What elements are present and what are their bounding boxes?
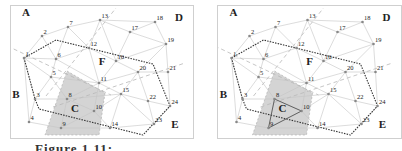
region-label: D <box>383 11 391 23</box>
node-label: 7 <box>70 19 74 26</box>
graph-edge <box>250 36 264 59</box>
node-label: 15 <box>123 86 130 93</box>
node-label: 19 <box>168 36 175 43</box>
node-label: 10 <box>96 103 103 110</box>
graph-node <box>267 127 270 130</box>
node-label: 3 <box>37 91 40 98</box>
node-label: 23 <box>363 116 370 123</box>
node-label: 20 <box>347 64 354 71</box>
graph-edge <box>308 20 338 32</box>
graph-node <box>99 19 102 22</box>
graph-edge <box>356 101 378 106</box>
region-label: A <box>230 6 238 18</box>
node-label: 7 <box>277 19 281 26</box>
graph-edge <box>56 48 89 59</box>
node-label: 5 <box>53 69 56 76</box>
region-label: F <box>99 55 106 67</box>
node-label: 12 <box>91 40 98 47</box>
node-label: 3 <box>244 91 247 98</box>
graph-node <box>248 35 251 38</box>
node-label: 2 <box>44 28 47 35</box>
node-label: 24 <box>379 98 386 105</box>
node-label: 18 <box>364 14 371 21</box>
node-label: 14 <box>112 120 119 127</box>
node-label: 4 <box>238 114 242 121</box>
graph-edge <box>276 27 297 48</box>
graph-node <box>28 121 31 124</box>
graph-edge <box>346 72 356 101</box>
graph-edge <box>356 101 362 124</box>
node-label: 17 <box>339 24 346 31</box>
node-label: 20 <box>140 64 147 71</box>
graph-node <box>257 76 260 79</box>
graph-node <box>316 127 319 130</box>
graph-node <box>344 71 347 74</box>
node-label: 16 <box>118 53 125 60</box>
node-label: 9 <box>270 120 273 127</box>
graph-edge <box>264 48 297 59</box>
graph-node <box>23 57 26 60</box>
region-label: C <box>71 102 79 114</box>
node-label: 19 <box>375 36 382 43</box>
graph-node <box>120 93 123 96</box>
node-label: 6 <box>58 51 62 58</box>
node-label: 1 <box>26 50 29 57</box>
node-label: 21 <box>377 64 384 71</box>
graph-edge <box>308 20 363 22</box>
graph-edge <box>68 20 100 27</box>
region-label: A <box>22 6 30 18</box>
node-label: 9 <box>63 120 66 127</box>
graph-node <box>306 19 309 22</box>
graph-node <box>322 60 325 63</box>
graph-node <box>50 76 53 79</box>
node-label: 14 <box>319 120 326 127</box>
node-label: 1 <box>233 50 236 57</box>
graph-node <box>169 105 172 108</box>
graph-node <box>305 82 308 85</box>
graph-node <box>374 71 377 74</box>
node-label: 8 <box>69 91 72 98</box>
graph-node <box>66 98 69 101</box>
graph-node <box>262 58 265 61</box>
node-label: 12 <box>298 40 305 47</box>
graph-node <box>129 31 132 34</box>
graph-node <box>115 60 118 63</box>
node-label: 23 <box>156 116 163 123</box>
node-label: 4 <box>31 114 35 121</box>
region-label: D <box>175 11 183 23</box>
graph-edge <box>68 27 89 48</box>
graph-edge <box>166 44 168 72</box>
node-label: 6 <box>265 51 269 58</box>
graph-diagram-right: 123456789101112131415161718192021222324A… <box>218 6 402 140</box>
graph-node <box>55 58 58 61</box>
graph-edge <box>148 101 170 106</box>
node-label: 17 <box>132 24 139 31</box>
diagram-panel-left: 123456789101112131415161718192021222324A… <box>10 5 194 139</box>
graph-node <box>300 110 303 113</box>
node-label: 5 <box>260 69 263 76</box>
region-label: F <box>306 55 313 67</box>
graph-node <box>154 21 157 24</box>
graph-node <box>153 123 156 126</box>
graph-node <box>88 47 91 50</box>
graph-node <box>230 57 233 60</box>
graph-node <box>167 71 170 74</box>
node-label: 21 <box>170 64 177 71</box>
graph-edge <box>148 101 154 124</box>
node-label: 13 <box>102 12 109 19</box>
graph-edge <box>374 44 376 72</box>
graph-edge <box>89 48 99 83</box>
graph-diagram-left: 123456789101112131415161718192021222324A… <box>11 6 195 140</box>
graph-node <box>67 26 70 29</box>
graph-node <box>372 43 375 46</box>
graph-node <box>354 100 357 103</box>
region-label: E <box>379 118 386 130</box>
region-label: B <box>220 88 228 100</box>
graph-node <box>295 47 298 50</box>
graph-node <box>137 71 140 74</box>
graph-edge <box>276 20 308 27</box>
graph-edge <box>24 58 56 59</box>
graph-node <box>376 105 379 108</box>
graph-node <box>360 123 363 126</box>
node-label: 10 <box>303 103 310 110</box>
